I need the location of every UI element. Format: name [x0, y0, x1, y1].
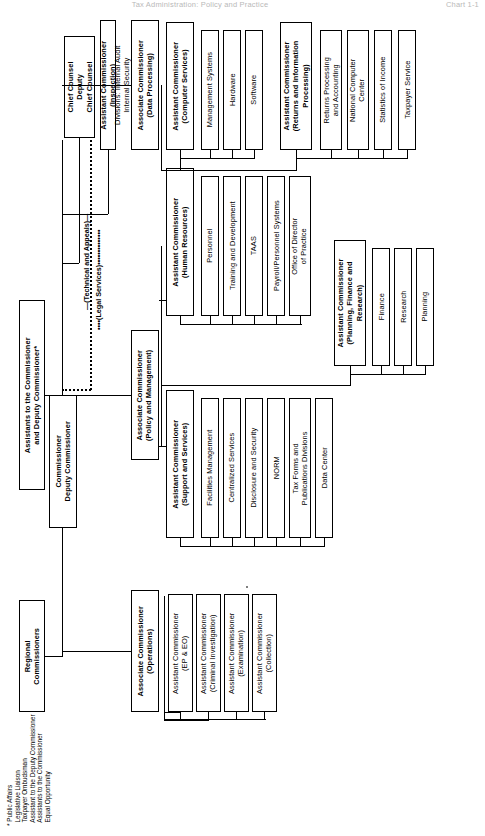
node-policy-management[interactable]: Associate Commissioner(Policy and Manage…	[131, 330, 159, 460]
node-statistics-of-income[interactable]: Statistics of Income	[374, 30, 392, 150]
node-assistants-to-commissioner[interactable]: Assistants to the Commissionerand Deputy…	[19, 300, 45, 490]
bus-operations	[164, 596, 165, 720]
node-assistants-to-commissioner-label: Assistants to the Commissionerand Deputy…	[23, 337, 42, 453]
node-software-label: Software	[249, 75, 258, 105]
link-spine-operations	[62, 651, 131, 652]
node-data-processing[interactable]: Associate Commissioner(Data Processing)	[131, 20, 159, 150]
node-operations-label: Associate Commissioner(Operations)	[136, 606, 155, 697]
bus-hr-children	[180, 324, 302, 325]
node-management-systems-label: Management Systems	[205, 52, 214, 127]
link-policy-pfr	[161, 385, 350, 386]
node-tax-forms-publications[interactable]: Tax Forms andPublications Divisions	[289, 398, 311, 538]
bus-rip-children	[296, 158, 407, 159]
node-data-center-label: Data Center	[319, 448, 328, 489]
node-planning-label: Planning	[420, 292, 429, 322]
node-examination-label: Assistant Commissioner(Examination)	[227, 612, 246, 693]
node-human-resources[interactable]: Assistant Commissioner(Human Resources)	[166, 168, 194, 316]
tick-examination	[236, 712, 237, 720]
tick-mgmt-systems	[210, 150, 211, 159]
bus-policy-management	[161, 246, 162, 446]
tick-research	[403, 366, 404, 375]
node-personnel[interactable]: Personnel	[201, 176, 219, 316]
tick-returns-processing	[331, 150, 332, 159]
node-computer-services[interactable]: Assistant Commissioner(Computer Services…	[166, 22, 194, 150]
tick-facilities	[210, 538, 211, 547]
link-commissioner-assistants	[45, 395, 63, 396]
link-operations-ep-eo	[164, 712, 181, 713]
link-policy-pfr-v	[350, 374, 351, 386]
bus-pfr-children	[350, 374, 425, 375]
node-office-director-practice-label: Office of Directorof Practice	[291, 217, 310, 274]
tick-planning	[425, 366, 426, 375]
node-statistics-of-income-label: Statistics of Income	[378, 57, 387, 123]
bus-data-processing	[161, 85, 162, 170]
tick-taxpayer-service	[407, 150, 408, 159]
node-management-systems[interactable]: Management Systems	[201, 30, 219, 150]
node-support-services-label: Assistant Commissioner(Support and Servi…	[171, 420, 190, 509]
node-centralized-services-label: Centralized Services	[227, 433, 236, 503]
tick-taas	[254, 316, 255, 325]
link-chief-counsel-technical-h	[62, 263, 79, 264]
node-tax-forms-publications-label: Tax Forms andPublications Divisions	[291, 431, 310, 505]
tick-hr-head	[180, 316, 181, 325]
node-examination[interactable]: Assistant Commissioner(Examination)	[224, 594, 249, 712]
node-collection-label: Assistant Commissioner(Collection)	[255, 612, 274, 693]
tick-payroll	[276, 316, 277, 325]
node-returns-processing-accounting[interactable]: Returns Processingand Accounting	[320, 30, 342, 150]
tick-ncc	[358, 150, 359, 159]
chart-footnote: * Public Affairs Legislative Liaison Tax…	[6, 714, 52, 826]
link-commissioner-regional	[45, 656, 63, 657]
node-planning[interactable]: Planning	[416, 248, 434, 366]
node-finance-label: Finance	[376, 293, 385, 320]
link-chief-counsel-legal-h	[62, 389, 91, 391]
node-operations[interactable]: Associate Commissioner(Operations)	[131, 590, 159, 712]
tick-datacenter	[324, 538, 325, 547]
node-data-center[interactable]: Data Center	[315, 398, 333, 538]
trunk-line-main	[62, 140, 63, 395]
tick-disclosure	[254, 538, 255, 547]
node-commissioner[interactable]: CommissionerDeputy Commissioner	[49, 395, 77, 528]
node-taxpayer-service[interactable]: Taxpayer Service	[398, 30, 416, 150]
node-software[interactable]: Software	[245, 30, 263, 150]
node-office-director-practice[interactable]: Office of Directorof Practice	[289, 176, 311, 316]
link-inspection-spine	[108, 150, 109, 214]
tick-soi	[383, 150, 384, 159]
running-head-folio: Chart 1-1	[446, 0, 479, 9]
node-facilities-management[interactable]: Facilities Management	[201, 398, 219, 538]
link-dp-bus-drop	[180, 158, 181, 171]
node-collection[interactable]: Assistant Commissioner(Collection)	[252, 594, 277, 712]
link-policy-hr	[159, 300, 167, 301]
node-norm-label: NORM	[271, 457, 280, 480]
node-criminal-investigation[interactable]: Assistant Commissioner(Criminal Investig…	[196, 594, 221, 712]
node-commissioner-label: CommissionerDeputy Commissioner	[54, 421, 73, 501]
node-regional-commissioners[interactable]: RegionalCommissioners	[19, 600, 45, 712]
node-taas[interactable]: TAAS	[245, 176, 263, 316]
node-research[interactable]: Research	[394, 248, 412, 366]
node-support-services[interactable]: Assistant Commissioner(Support and Servi…	[166, 390, 194, 538]
node-finance[interactable]: Finance	[372, 248, 390, 366]
node-ep-eo[interactable]: Assistant Commissioner(EP & EO)	[168, 594, 193, 712]
node-payroll-personnel-systems[interactable]: Payroll/Personnel Systems	[267, 176, 285, 316]
node-hardware-label: Hardware	[227, 74, 236, 107]
tick-finance	[381, 366, 382, 375]
org-chart-page: Tax Administration: Policy and Practice …	[0, 0, 485, 836]
node-national-computer-center[interactable]: National ComputerCenter	[347, 30, 369, 150]
node-chief-counsel[interactable]: Chief CounselDeputyChief Counsel	[64, 36, 95, 138]
node-planning-finance-research[interactable]: Assistant Commissioner(Planning, Finance…	[334, 240, 366, 366]
node-returns-information-processing[interactable]: Assistant Commissioner(Returns and Infor…	[280, 22, 312, 150]
link-label-legal-services: ••••(Legal Services)••••••••••••••	[95, 230, 104, 330]
node-data-processing-label: Associate Commissioner(Data Processing)	[136, 40, 155, 131]
tick-centralized	[232, 538, 233, 547]
node-norm[interactable]: NORM	[267, 398, 285, 538]
link-spine-dataprocessing	[62, 85, 131, 86]
node-hardware[interactable]: Hardware	[223, 30, 241, 150]
node-training-development[interactable]: Training and Development	[223, 176, 241, 316]
node-disclosure-security[interactable]: Disclosure and Security	[245, 398, 263, 538]
node-centralized-services[interactable]: Centralized Services	[223, 398, 241, 538]
link-label-technical-appeals: —(Technical and Appeals)—	[83, 214, 92, 310]
tick-software	[254, 150, 255, 159]
node-facilities-management-label: Facilities Management	[205, 430, 214, 506]
node-payroll-personnel-systems-label: Payroll/Personnel Systems	[271, 201, 280, 292]
node-policy-management-label: Associate Commissioner(Policy and Manage…	[136, 349, 155, 440]
link-dp-bus-drop2	[296, 158, 297, 171]
